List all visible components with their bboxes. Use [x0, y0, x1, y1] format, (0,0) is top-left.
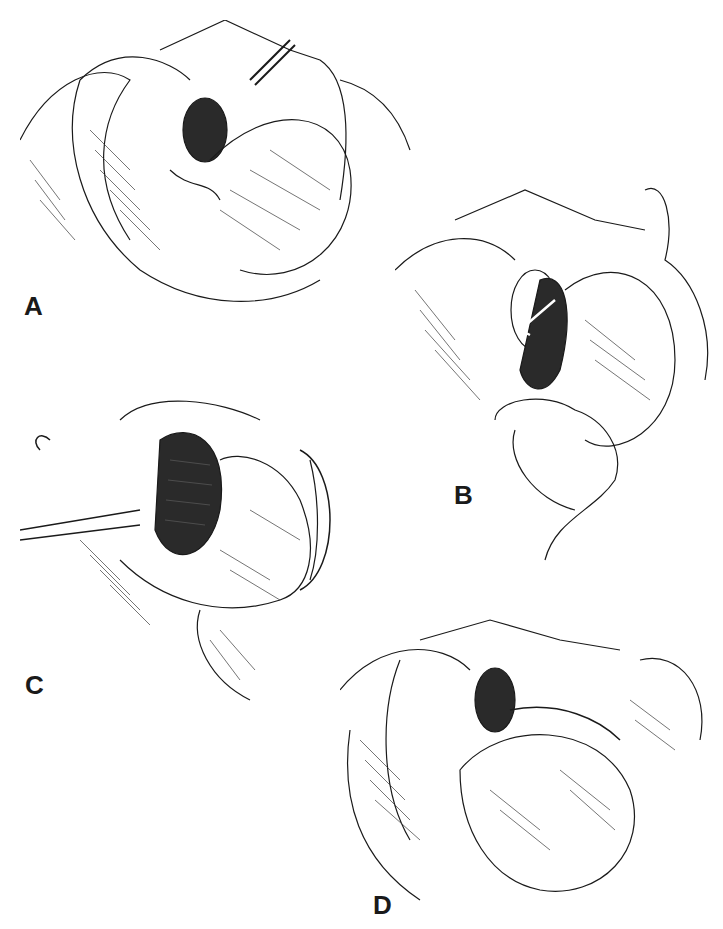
- panel-d: D: [340, 610, 723, 929]
- panel-c: C: [20, 380, 360, 720]
- panel-d-illustration: [340, 610, 723, 929]
- panel-c-illustration: [20, 380, 360, 720]
- panel-label-b: B: [454, 482, 473, 508]
- panel-b-illustration: [395, 180, 723, 580]
- panel-a-illustration: [20, 20, 420, 310]
- panel-b: B: [395, 180, 723, 580]
- panel-label-c: C: [25, 672, 44, 698]
- panel-label-a: A: [24, 293, 43, 319]
- panel-label-d: D: [373, 892, 392, 918]
- panel-a: A: [20, 20, 420, 310]
